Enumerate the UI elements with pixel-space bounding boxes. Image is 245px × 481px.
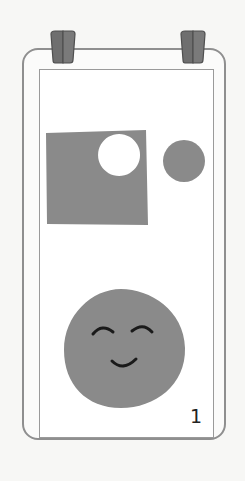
smiling-face-shape xyxy=(64,289,185,408)
small-circle-shape xyxy=(163,140,205,182)
clip-icon-right xyxy=(181,31,205,63)
illustration xyxy=(0,0,245,481)
clip-icon-left xyxy=(51,31,75,63)
square-with-hole-shape xyxy=(46,130,148,225)
page-number: 1 xyxy=(190,405,202,427)
